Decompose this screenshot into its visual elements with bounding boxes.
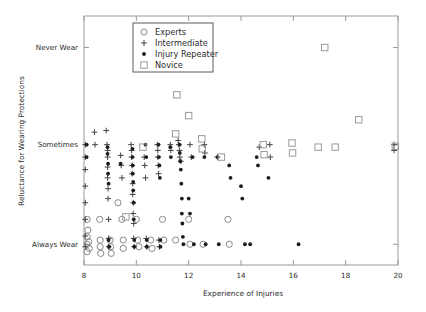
data-point xyxy=(149,245,155,251)
data-point xyxy=(256,164,260,168)
data-point xyxy=(85,155,89,159)
data-point xyxy=(115,200,121,206)
data-point xyxy=(256,144,262,150)
data-point xyxy=(131,172,135,176)
data-point xyxy=(240,197,244,201)
data-point xyxy=(202,150,208,156)
y-tick-label: Never Wear xyxy=(36,43,78,52)
data-point xyxy=(248,242,252,246)
y-tick-label: Always Wear xyxy=(32,240,78,249)
y-tick-label: Sometimes xyxy=(38,140,79,149)
data-point xyxy=(180,222,184,226)
data-point xyxy=(239,184,243,188)
data-point xyxy=(131,180,135,184)
data-point xyxy=(119,162,123,166)
x-tick-label: 12 xyxy=(184,271,193,280)
plot-frame xyxy=(84,16,398,265)
x-tick-label: 16 xyxy=(289,271,299,280)
data-point xyxy=(159,238,163,242)
y-axis-label: Reluctance for Wearing Protections xyxy=(17,76,26,206)
data-point xyxy=(142,163,148,169)
data-point xyxy=(267,154,273,160)
data-point xyxy=(204,242,208,246)
legend-label: Experts xyxy=(155,27,186,37)
data-point xyxy=(97,244,103,250)
data-point xyxy=(315,144,321,150)
data-point xyxy=(179,182,183,186)
data-point xyxy=(201,142,207,148)
data-point xyxy=(106,152,110,156)
data-point xyxy=(229,176,233,180)
data-point xyxy=(105,175,111,181)
data-point xyxy=(82,216,88,222)
data-point xyxy=(82,200,88,206)
data-point xyxy=(227,164,231,168)
data-point xyxy=(144,155,148,159)
data-point xyxy=(118,153,124,159)
x-tick-label: 20 xyxy=(393,271,403,280)
data-point xyxy=(202,155,206,159)
data-point xyxy=(82,183,88,189)
data-point xyxy=(132,245,136,249)
series-experts xyxy=(84,200,232,257)
x-tick-label: 14 xyxy=(236,271,246,280)
legend-item[interactable]: Novice xyxy=(141,60,183,70)
data-point xyxy=(188,212,192,216)
data-point xyxy=(172,237,178,243)
data-point xyxy=(82,167,88,173)
data-point xyxy=(106,145,110,149)
scatter-plot-figure: 8101214161820 Never WearSometimesAlways … xyxy=(0,0,426,312)
data-point xyxy=(322,44,328,50)
x-tick-label: 18 xyxy=(341,271,351,280)
x-axis-ticks: 8101214161820 xyxy=(82,16,403,280)
data-point xyxy=(106,162,110,166)
data-points xyxy=(82,44,398,256)
data-point xyxy=(156,171,162,177)
data-point xyxy=(119,175,125,181)
data-point xyxy=(178,143,182,147)
data-point xyxy=(159,216,165,222)
data-point xyxy=(132,217,136,221)
data-point xyxy=(169,155,173,159)
data-point xyxy=(143,175,149,181)
data-point xyxy=(178,159,182,163)
x-axis-label: Experience of Injuries xyxy=(203,289,283,298)
data-point xyxy=(267,142,273,148)
data-point xyxy=(226,241,232,247)
data-point xyxy=(103,128,109,134)
data-point xyxy=(332,144,338,150)
data-point xyxy=(144,143,148,147)
data-point xyxy=(108,250,114,256)
data-point xyxy=(177,154,183,160)
data-point xyxy=(130,211,136,217)
data-point xyxy=(185,112,191,118)
data-point xyxy=(172,131,178,137)
series-intermediate xyxy=(82,128,397,250)
data-point xyxy=(130,192,136,198)
data-point xyxy=(128,142,134,148)
data-point xyxy=(131,188,135,192)
data-point xyxy=(191,155,195,159)
data-point xyxy=(267,176,271,180)
data-point xyxy=(131,155,135,159)
series-injury-repeater xyxy=(85,143,301,249)
data-point xyxy=(131,221,137,227)
data-point xyxy=(192,242,196,246)
data-point xyxy=(199,136,205,142)
data-point xyxy=(119,216,125,222)
data-point xyxy=(131,147,135,151)
legend-label: Injury Repeater xyxy=(155,49,219,59)
data-point xyxy=(145,238,149,242)
data-point xyxy=(92,129,98,135)
data-point xyxy=(132,201,136,205)
data-point xyxy=(216,155,220,159)
data-point xyxy=(145,245,149,249)
data-point xyxy=(98,250,104,256)
data-point xyxy=(106,172,110,176)
data-point xyxy=(97,216,103,222)
data-point xyxy=(186,216,192,222)
data-point xyxy=(107,245,111,249)
data-point xyxy=(107,238,111,242)
data-point xyxy=(289,140,295,146)
data-point xyxy=(106,216,112,222)
